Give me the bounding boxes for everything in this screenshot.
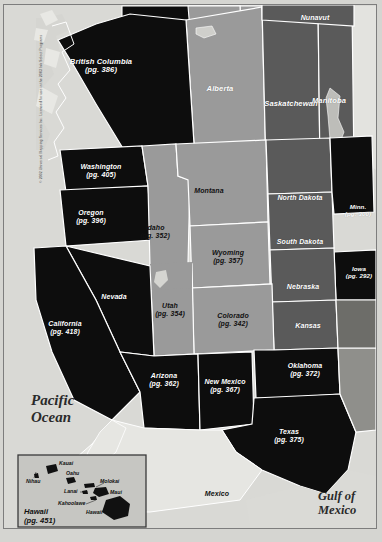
region-missouri: [336, 300, 376, 348]
inset-label-lanai: Lanai: [64, 489, 78, 495]
region-iowa: [334, 250, 376, 300]
gulf-line2: Mexico: [318, 503, 356, 517]
region-oklahoma: [254, 348, 340, 398]
inset-title-hawaii: Hawaii (pg. 451): [24, 508, 55, 525]
region-washington: [60, 146, 148, 192]
gulf-line1: Gulf of: [318, 489, 355, 503]
map-index-graphic: British Columbia (pg. 386) Alberta Saska…: [0, 0, 382, 542]
region-new-mexico: [198, 352, 254, 430]
inset-label-oahu: Oahu: [66, 471, 79, 477]
pacific-line1: Pacific: [31, 392, 74, 408]
inset-label-kahoolawe: Kahoolawe: [58, 501, 85, 507]
region-south-dakota: [268, 192, 334, 250]
region-wyoming: [190, 222, 270, 288]
copyright-notice: © 2002 Universal Mapping Services Inc. L…: [39, 13, 43, 183]
inset-title-hawaii-page: (pg. 451): [24, 516, 55, 525]
label-gulf-of-mexico: Gulf of Mexico: [318, 489, 356, 517]
label-pacific-ocean: Pacific Ocean: [31, 392, 74, 426]
inset-label-niihau: Nihau: [26, 479, 40, 485]
region-nebraska: [270, 248, 336, 302]
inset-label-molokai: Molokai: [100, 479, 119, 485]
map-vector-layer: [0, 0, 382, 542]
region-minnesota: [330, 136, 374, 214]
region-oregon: [60, 186, 152, 246]
region-colorado: [192, 284, 274, 354]
inset-label-kauai: Kauai: [59, 461, 73, 467]
region-kansas: [272, 300, 338, 350]
inset-label-maui: Maui: [110, 490, 122, 496]
region-montana: [176, 140, 268, 226]
region-north-dakota: [266, 138, 332, 194]
inset-label-hawaii-island: Hawaii: [86, 510, 102, 516]
pacific-line2: Ocean: [31, 409, 71, 425]
